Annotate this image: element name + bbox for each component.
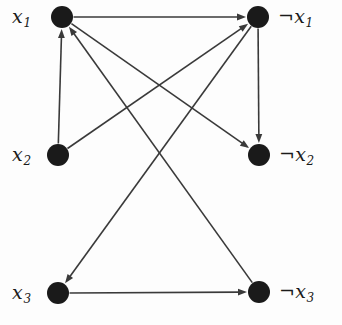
graph-node-nx1[interactable] (247, 6, 269, 28)
arrowhead-icon (58, 29, 65, 38)
edge-nx3-to-x1 (69, 27, 252, 283)
edge-x2-to-nx1 (67, 24, 248, 149)
edge-line (70, 292, 241, 293)
edge-x2-to-x1 (58, 29, 65, 144)
edge-line (258, 29, 259, 137)
edge-nx1-to-nx2 (255, 29, 262, 144)
variable-index: 1 (23, 16, 31, 30)
node-label-nx1: ¬x1 (278, 7, 313, 26)
arrowhead-icon (69, 27, 77, 36)
edge-x3-to-nx3 (70, 289, 248, 296)
variable-symbol: x (12, 281, 23, 303)
implication-graph-figure: x1¬x1x2¬x2x3¬x3 (0, 0, 342, 325)
graph-node-x1[interactable] (51, 6, 73, 28)
variable-symbol: x (12, 143, 23, 165)
arrowhead-icon (255, 134, 262, 143)
variable-symbol: x (295, 143, 306, 165)
edge-x1-to-nx1 (74, 14, 247, 21)
edge-layer (58, 14, 262, 296)
variable-symbol: x (12, 5, 23, 27)
graph-node-nx2[interactable] (248, 144, 270, 166)
arrowhead-icon (240, 140, 249, 148)
variable-index: 1 (306, 16, 314, 30)
variable-symbol: x (295, 280, 306, 302)
node-label-nx3: ¬x3 (279, 282, 314, 301)
graph-node-nx3[interactable] (248, 281, 270, 303)
variable-index: 3 (23, 292, 31, 306)
node-label-nx2: ¬x2 (279, 145, 314, 164)
graph-node-x2[interactable] (47, 144, 69, 166)
arrowhead-icon (65, 274, 73, 283)
arrowhead-icon (238, 289, 247, 296)
graph-node-x3[interactable] (47, 282, 69, 304)
edge-nx1-to-x3 (65, 26, 251, 283)
variable-index: 2 (307, 154, 315, 168)
edge-line (58, 36, 61, 144)
edge-line (67, 28, 242, 149)
arrowhead-icon (239, 24, 248, 32)
node-label-x1: x1 (12, 7, 31, 26)
variable-symbol: x (294, 5, 305, 27)
negation-icon: ¬ (279, 280, 295, 302)
edge-line (73, 32, 252, 282)
node-label-x2: x2 (12, 145, 31, 164)
node-label-x3: x3 (12, 283, 31, 302)
arrowhead-icon (237, 14, 246, 21)
edge-line (71, 24, 243, 145)
negation-icon: ¬ (279, 143, 295, 165)
variable-index: 3 (307, 291, 315, 305)
variable-index: 2 (23, 154, 31, 168)
negation-icon: ¬ (278, 5, 294, 27)
